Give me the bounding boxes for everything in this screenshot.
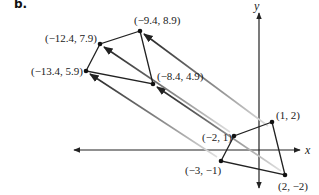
vertex-pre-a (270, 120, 275, 125)
vertex-pre-d (232, 134, 237, 139)
label-image-a: (−9.4, 8.9) (134, 14, 181, 27)
label-image-b: (−8.4, 4.9) (157, 70, 204, 83)
arrow-4 (104, 47, 230, 132)
label-pre-d: (−2, 1) (202, 131, 232, 144)
vertex-pre-c (219, 159, 224, 164)
y-axis: y (253, 0, 260, 188)
coordinate-plane: x y (−9.4, 8.9) (−8.4, 4.9) (−13.4, 5.9)… (0, 0, 319, 195)
image-quadrilateral: (−9.4, 8.9) (−8.4, 4.9) (−13.4, 5.9) (−1… (31, 14, 204, 86)
label-image-d: (−12.4, 7.9) (45, 32, 97, 45)
x-axis: x (74, 143, 311, 157)
vertex-image-b (151, 82, 156, 87)
label-pre-b: (2, −2) (278, 180, 308, 193)
vertex-image-a (138, 29, 143, 34)
vertex-image-c (84, 69, 89, 74)
vertex-image-d (98, 42, 103, 47)
label-pre-a: (1, 2) (276, 109, 300, 122)
vertex-pre-b (283, 173, 288, 178)
part-label: b. (14, 0, 27, 11)
y-axis-label: y (253, 0, 260, 13)
translation-figure: b. x y (0, 0, 319, 195)
label-image-c: (−13.4, 5.9) (31, 65, 83, 78)
label-pre-c: (−3, −1) (185, 164, 222, 177)
preimage-quadrilateral: (1, 2) (2, −2) (−3, −1) (−2, 1) (185, 109, 308, 193)
x-axis-label: x (304, 143, 311, 157)
